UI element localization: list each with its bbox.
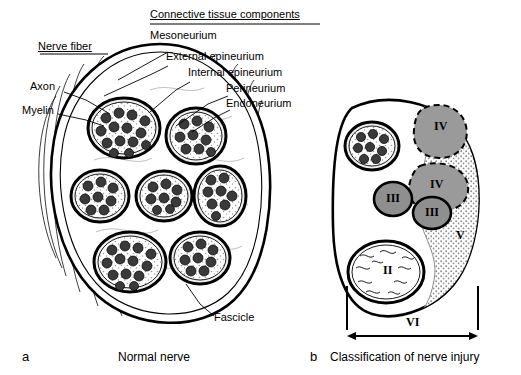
degree-VI-label: VI bbox=[406, 316, 419, 328]
label-perineurium: Perineurium bbox=[226, 82, 285, 94]
label-external-epineurium: External epineurium bbox=[166, 50, 264, 62]
panel-a-letter: a bbox=[22, 350, 29, 364]
label-internal-epineurium: Internal epineurium bbox=[188, 66, 282, 78]
panel-b-artwork bbox=[333, 96, 492, 340]
degree-IV-label-lower: IV bbox=[430, 178, 443, 190]
label-connective-tissue-components: Connective tissue components bbox=[150, 8, 300, 20]
label-nerve-fiber: Nerve fiber bbox=[38, 40, 92, 52]
label-fascicle: Fascicle bbox=[214, 311, 254, 323]
panel-a-caption: Normal nerve bbox=[118, 350, 190, 364]
fascicles-a bbox=[71, 98, 246, 292]
figure-root: Connective tissue components Mesoneurium… bbox=[0, 0, 521, 375]
degree-V-label: V bbox=[456, 229, 465, 241]
label-axon: Axon bbox=[30, 80, 55, 92]
panel-b-caption: Classification of nerve injury bbox=[330, 350, 479, 364]
label-mesoneurium: Mesoneurium bbox=[150, 29, 217, 41]
label-endoneurium: Endoneurium bbox=[226, 97, 291, 109]
degree-III-label-right: III bbox=[425, 206, 439, 218]
degree-IV-label-upper: IV bbox=[434, 120, 447, 132]
degree-III-label-left: III bbox=[386, 192, 400, 204]
panel-b-letter: b bbox=[310, 350, 317, 364]
label-myelin: Myelin bbox=[22, 104, 54, 116]
degree-II-label: II bbox=[383, 264, 392, 276]
